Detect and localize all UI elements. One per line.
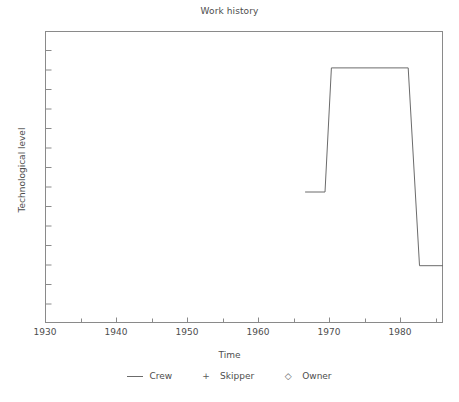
crew-line bbox=[305, 68, 443, 266]
legend-plus-icon: + bbox=[198, 372, 214, 381]
x-axis-title: Time bbox=[0, 350, 459, 360]
chart-legend: Crew + Skipper ◇ Owner bbox=[0, 371, 459, 381]
x-axis-tick-label-1970: 1970 bbox=[309, 327, 349, 337]
plot-border bbox=[46, 32, 443, 323]
legend-diamond-icon: ◇ bbox=[280, 372, 296, 381]
y-axis-title: Technological level bbox=[17, 110, 27, 230]
plot-canvas bbox=[0, 0, 459, 402]
x-axis-tick-label-1950: 1950 bbox=[167, 327, 207, 337]
legend-line-icon bbox=[127, 372, 143, 381]
y-ticks bbox=[46, 51, 52, 305]
x-axis-tick-label-1930: 1930 bbox=[25, 327, 65, 337]
series-crew bbox=[305, 68, 443, 266]
legend-label-crew: Crew bbox=[149, 371, 172, 381]
legend-label-skipper: Skipper bbox=[220, 371, 254, 381]
legend-entry-crew: Crew bbox=[127, 371, 172, 381]
legend-label-owner: Owner bbox=[302, 371, 331, 381]
x-axis-tick-label-1940: 1940 bbox=[96, 327, 136, 337]
legend-entry-owner: ◇ Owner bbox=[280, 371, 331, 381]
x-axis-tick-label-1960: 1960 bbox=[238, 327, 278, 337]
legend-entry-skipper: + Skipper bbox=[198, 371, 254, 381]
chart-figure: Work history bbox=[0, 0, 459, 402]
x-axis-tick-label-1980: 1980 bbox=[380, 327, 420, 337]
plot-frame bbox=[46, 32, 443, 323]
